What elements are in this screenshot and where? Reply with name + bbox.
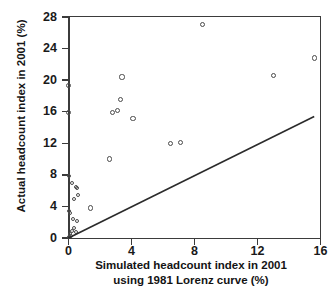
x-tick-label: 4 xyxy=(119,245,145,258)
data-point xyxy=(72,197,76,201)
data-point xyxy=(107,156,112,161)
y-tick-label: 28 xyxy=(31,11,57,24)
x-axis-title: Simulated headcount index in 2001 using … xyxy=(46,258,335,287)
x-tick-label: 0 xyxy=(56,245,82,258)
data-point xyxy=(178,140,183,145)
x-axis-title-line-1: Simulated headcount index in 2001 xyxy=(46,258,335,273)
y-tick-mark xyxy=(62,16,69,18)
data-point xyxy=(70,181,74,185)
plot-area xyxy=(68,17,321,238)
y-tick-label: 0 xyxy=(31,232,57,245)
x-tick-label: 12 xyxy=(245,245,271,258)
y-tick-label: 8 xyxy=(31,168,57,181)
y-tick-label: 16 xyxy=(31,105,57,118)
scatter-plot-figure: 0481216202428 0481216 Actual headcount i… xyxy=(0,0,335,300)
data-point xyxy=(271,73,276,78)
y-tick-label: 4 xyxy=(31,200,57,213)
x-axis-title-line-2: using 1981 Lorenz curve (%) xyxy=(46,273,335,288)
y-axis-title: Actual headcount index in 2001 (%) xyxy=(15,16,27,216)
y-tick-mark xyxy=(62,206,69,208)
data-point xyxy=(119,74,124,79)
y-tick-label: 12 xyxy=(31,137,57,150)
x-tick-label: 16 xyxy=(308,245,334,258)
data-point xyxy=(312,55,317,60)
right-frame-line xyxy=(320,16,321,239)
y-tick-label: 20 xyxy=(31,74,57,87)
data-point xyxy=(88,205,93,210)
top-frame-line xyxy=(68,16,321,17)
y-tick-mark xyxy=(62,143,69,145)
y-tick-mark xyxy=(62,48,69,50)
data-point xyxy=(75,219,79,223)
y-tick-label: 24 xyxy=(31,42,57,55)
y-tick-mark xyxy=(62,79,69,81)
data-point xyxy=(74,230,78,234)
x-tick-label: 8 xyxy=(182,245,208,258)
data-point xyxy=(68,211,72,215)
data-point xyxy=(115,108,120,113)
data-point xyxy=(67,235,71,239)
